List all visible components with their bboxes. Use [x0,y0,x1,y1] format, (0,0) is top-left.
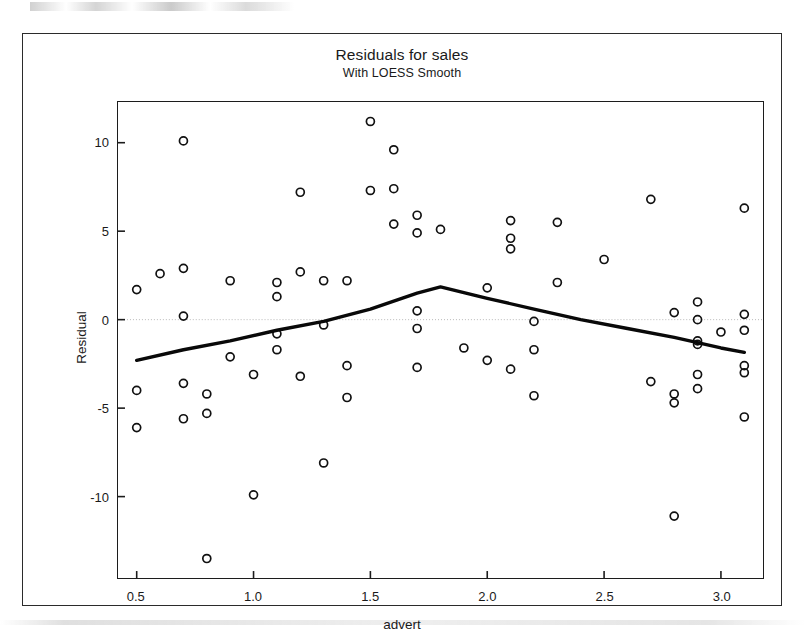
data-point [390,185,398,193]
data-point [203,390,211,398]
x-tick-label: 1.5 [348,589,392,604]
data-point [740,204,748,212]
chart-title: Residuals for sales [23,46,781,64]
data-point [694,298,702,306]
data-point [366,117,374,125]
data-point [390,146,398,154]
x-tick-label: 2.5 [583,589,627,604]
data-point [133,286,141,294]
x-tick-label: 3.0 [700,589,744,604]
y-axis-title: Residual [74,278,89,398]
data-point [670,309,678,317]
data-point [273,293,281,301]
data-point [390,220,398,228]
data-point [296,188,304,196]
data-point [740,326,748,334]
data-point [179,264,187,272]
data-point [670,390,678,398]
data-point [694,316,702,324]
data-point [530,317,538,325]
data-point [273,346,281,354]
data-point [694,371,702,379]
y-tick-label: -5 [69,401,109,416]
data-point [226,353,234,361]
data-point [530,392,538,400]
data-point [320,459,328,467]
data-point [670,512,678,520]
data-point [437,225,445,233]
data-point [483,284,491,292]
data-point [413,307,421,315]
data-point [483,356,491,364]
data-point [507,365,515,373]
data-point [250,371,258,379]
plot-area [117,101,764,579]
scatter-plot-canvas [118,102,763,578]
data-point [156,270,164,278]
data-point [740,413,748,421]
x-axis-title: advert [23,617,781,632]
data-point [670,399,678,407]
data-point [647,378,655,386]
data-point [296,372,304,380]
y-tick-label: 10 [69,134,109,149]
scan-artifact-top [30,2,330,11]
data-point [553,218,561,226]
figure-frame: Residuals for sales With LOESS Smooth Re… [22,33,782,606]
x-tick-label: 0.5 [114,589,158,604]
data-point [179,415,187,423]
data-point [133,424,141,432]
data-point [507,234,515,242]
data-point [413,325,421,333]
data-point [179,137,187,145]
data-point [647,195,655,203]
data-point [179,312,187,320]
data-point [507,217,515,225]
axis-tick-marks [118,143,721,578]
data-point [413,211,421,219]
data-point [600,256,608,264]
x-tick-label: 1.0 [231,589,275,604]
data-point [320,277,328,285]
data-point-markers [133,117,749,562]
data-point [203,555,211,563]
data-point [694,385,702,393]
data-point [179,379,187,387]
data-point [507,245,515,253]
x-tick-label: 2.0 [465,589,509,604]
figure-page: Residuals for sales With LOESS Smooth Re… [0,0,804,632]
data-point [413,363,421,371]
y-tick-label: 5 [69,223,109,238]
y-tick-label: -10 [69,490,109,505]
data-point [226,277,234,285]
data-point [460,344,468,352]
data-point [530,346,538,354]
data-point [413,229,421,237]
data-point [553,279,561,287]
data-point [273,279,281,287]
y-tick-label: 0 [69,312,109,327]
data-point [343,362,351,370]
data-point [343,277,351,285]
data-point [717,328,725,336]
loess-smooth-curve [137,287,745,360]
chart-subtitle: With LOESS Smooth [23,66,781,80]
data-point [343,394,351,402]
data-point [203,409,211,417]
data-point [133,386,141,394]
data-point [296,268,304,276]
data-point [740,310,748,318]
data-point [366,186,374,194]
data-point [250,491,258,499]
